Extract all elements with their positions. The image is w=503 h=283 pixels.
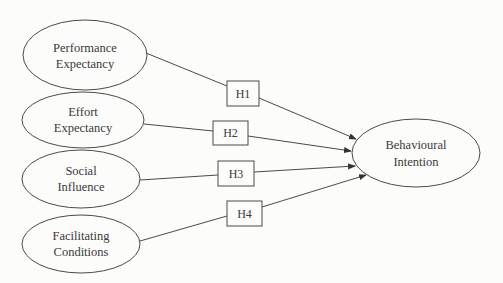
hypothesis-label: H2 — [223, 126, 238, 140]
arrow-h1-bi — [259, 98, 356, 139]
hypothesis-box-h2: H2 — [213, 121, 248, 145]
arrow-h2-bi — [248, 136, 351, 151]
node-label-line1: Behavioural — [385, 138, 447, 152]
hypothesis-label: H3 — [229, 167, 244, 181]
node-label-line1: Performance — [53, 41, 117, 55]
line-ee-h2 — [144, 124, 213, 131]
node-label-line2: Influence — [57, 180, 105, 194]
hypothesis-box-h4: H4 — [227, 201, 262, 226]
node-effort-expectancy: Effort Expectancy — [22, 92, 144, 148]
arrow-h3-bi — [254, 166, 355, 172]
arrow-h4-bi — [262, 175, 366, 207]
node-facilitating-conditions: Facilitating Conditions — [22, 215, 140, 273]
node-social-influence: Social Influence — [22, 150, 140, 208]
hypothesis-box-h1: H1 — [227, 81, 259, 106]
node-label-line2: Conditions — [54, 245, 109, 259]
hypothesis-label: H1 — [236, 87, 251, 101]
line-si-h3 — [140, 175, 218, 180]
node-label-line2: Intention — [393, 155, 439, 169]
node-label-line1: Social — [65, 164, 97, 178]
node-label-line1: Effort — [68, 105, 98, 119]
line-fc-h4 — [140, 216, 227, 241]
connector-lines — [140, 53, 227, 241]
node-label-line1: Facilitating — [53, 229, 111, 243]
research-model-diagram: Performance Expectancy Effort Expectancy… — [0, 0, 503, 283]
hypothesis-box-h3: H3 — [218, 161, 254, 186]
line-pe-h1 — [146, 53, 227, 86]
node-behavioural-intention: Behavioural Intention — [352, 119, 480, 187]
node-label-line2: Expectancy — [56, 57, 115, 71]
node-performance-expectancy: Performance Expectancy — [23, 20, 147, 90]
hypothesis-label: H4 — [237, 207, 252, 221]
node-label-line2: Expectancy — [54, 121, 113, 135]
arrow-lines — [248, 98, 366, 207]
